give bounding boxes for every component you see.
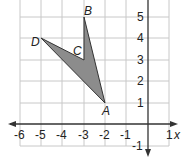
svg-text:-1: -1 [132,139,143,153]
y-axis-down-arrow-icon [145,149,151,157]
svg-text:-6: -6 [14,128,25,142]
svg-text:1: 1 [137,96,144,110]
vertex-c-label: C [73,44,82,58]
vertex-b-label: B [84,4,92,18]
svg-text:-3: -3 [78,128,89,142]
svg-text:1: 1 [166,128,173,142]
svg-text:-2: -2 [99,128,110,142]
svg-text:-1: -1 [120,128,131,142]
svg-text:5: 5 [137,10,144,24]
x-tick-labels: -6 -5 -4 -3 -2 -1 1 x [14,128,181,142]
x-axis-left-arrow-icon [8,121,16,127]
svg-text:-4: -4 [56,128,67,142]
svg-text:2: 2 [137,74,144,88]
svg-text:4: 4 [137,31,144,45]
coordinate-plane: -6 -5 -4 -3 -2 -1 1 x 5 4 3 2 1 -1 A B C… [0,0,181,160]
vertex-a-label: A [101,104,110,118]
x-axis-label: x [173,128,181,142]
svg-text:-5: -5 [35,128,46,142]
svg-text:3: 3 [137,53,144,67]
x-axis-right-arrow-icon [170,121,178,127]
vertex-d-label: D [31,35,40,49]
